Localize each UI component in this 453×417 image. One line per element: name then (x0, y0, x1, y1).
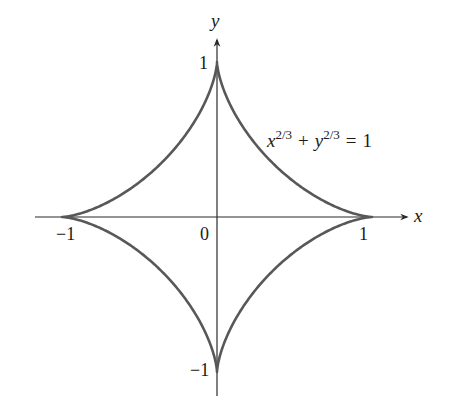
eq-plus: + (298, 130, 309, 151)
y-axis-label: y (209, 10, 220, 31)
astroid-figure: x y −1 1 0 1 −1 x2/3+y2/3=1 (0, 0, 453, 417)
eq-rhs: 1 (363, 130, 373, 151)
eq-equals: = (346, 130, 357, 151)
tick-label-x-neg1: −1 (56, 224, 75, 244)
eq-y: y (313, 130, 324, 151)
tick-label-x-pos1: 1 (359, 224, 368, 244)
eq-x-exponent: 2/3 (275, 127, 292, 142)
x-axis-label: x (413, 205, 423, 226)
tick-label-y-pos1: 1 (199, 53, 208, 73)
tick-label-origin: 0 (200, 224, 209, 244)
tick-label-y-neg1: −1 (190, 360, 209, 380)
eq-y-exponent: 2/3 (323, 127, 340, 142)
equation-label: x2/3+y2/3=1 (266, 127, 372, 151)
